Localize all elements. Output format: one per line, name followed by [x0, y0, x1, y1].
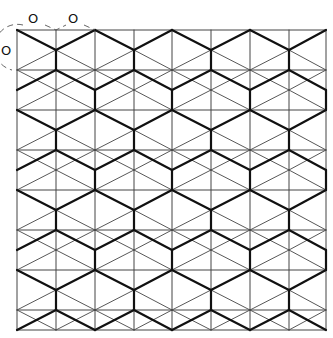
- lattice-diagonal: [134, 290, 172, 310]
- hexagon-edge: [250, 110, 289, 130]
- hexagon-edge: [134, 270, 172, 290]
- circle-label-3: O: [1, 44, 11, 57]
- lattice-diagonal: [250, 50, 289, 70]
- hexagon-edge: [95, 190, 134, 210]
- lattice-diagonal: [289, 250, 326, 270]
- lattice-diagonal: [56, 290, 95, 310]
- hexagon-edge: [289, 30, 326, 50]
- lattice-diagonal: [172, 50, 211, 70]
- hexagon-edge: [17, 30, 56, 50]
- lattice-diagonal: [289, 210, 326, 230]
- lattice-diagonal: [17, 130, 56, 150]
- lattice-diagonal: [17, 250, 56, 270]
- hexagon-edge: [17, 110, 56, 130]
- hexagon-edge: [172, 110, 211, 130]
- lattice-diagonal: [289, 290, 326, 310]
- lattice-diagonal: [211, 290, 250, 310]
- lattice-diagonal: [95, 250, 134, 270]
- hexagon-edge: [289, 190, 326, 210]
- lattice-diagonal: [134, 130, 172, 150]
- lattice-diagonal: [56, 210, 95, 230]
- circle-label-1: O: [28, 12, 38, 25]
- hexagon-edge: [172, 190, 211, 210]
- lattice-diagonal: [95, 90, 134, 110]
- lattice-diagonal: [172, 210, 211, 230]
- lattice-diagonal: [250, 210, 289, 230]
- hexagon-edge: [95, 270, 134, 290]
- hexagon-edge: [56, 110, 95, 130]
- lattice-diagonal: [172, 130, 211, 150]
- hexagon-edge: [95, 110, 134, 130]
- lattice-diagonal: [95, 50, 134, 70]
- compass-arc-mid: [45, 25, 66, 30]
- hexagon-edge: [250, 270, 289, 290]
- lattice-diagonal: [250, 130, 289, 150]
- hexagon-tiling-diagram: O O O: [0, 0, 333, 338]
- lattice-diagonal: [172, 250, 211, 270]
- lattice-diagonal: [56, 50, 95, 70]
- hexagon-edge: [56, 270, 95, 290]
- hexagon-edge: [211, 190, 250, 210]
- hexagon-edge: [172, 30, 211, 50]
- circle-label-2: O: [68, 12, 78, 25]
- hexagon-edge: [134, 110, 172, 130]
- hexagon-edge: [95, 30, 134, 50]
- lattice-diagonal: [211, 170, 250, 190]
- lattice-diagonal: [211, 210, 250, 230]
- hexagon-edge: [211, 110, 250, 130]
- lattice-diagonal: [211, 250, 250, 270]
- lattice-diagonal: [289, 90, 326, 110]
- hexagon-edge: [211, 270, 250, 290]
- hexagon-edge: [250, 30, 289, 50]
- lattice-diagonal: [211, 90, 250, 110]
- lattice-diagonal: [56, 250, 95, 270]
- lattice-svg: [0, 0, 333, 338]
- lattice-diagonal: [17, 90, 56, 110]
- lattice-diagonal: [134, 210, 172, 230]
- hexagon-edge: [134, 30, 172, 50]
- hexagon-edge: [17, 270, 56, 290]
- lattice-diagonal: [95, 170, 134, 190]
- lattice-diagonal: [17, 210, 56, 230]
- hexagon-edge: [211, 30, 250, 50]
- hexagon-edge: [56, 30, 95, 50]
- lattice-diagonal: [250, 90, 289, 110]
- lattice-diagonal: [56, 90, 95, 110]
- compass-arc-right: [84, 25, 95, 30]
- lattice-diagonal: [95, 130, 134, 150]
- lattice-diagonal: [289, 170, 326, 190]
- lattice-diagonal: [56, 130, 95, 150]
- lattice-diagonal: [134, 170, 172, 190]
- lattice-diagonal: [17, 50, 56, 70]
- hexagon-edge: [134, 190, 172, 210]
- lattice-diagonal: [134, 50, 172, 70]
- lattice-diagonal: [134, 90, 172, 110]
- hexagon-edge: [289, 270, 326, 290]
- lattice-diagonal: [95, 290, 134, 310]
- hexagon-edge: [172, 270, 211, 290]
- lattice-diagonal: [250, 170, 289, 190]
- hexagon-edge: [289, 110, 326, 130]
- lattice-diagonal: [17, 170, 56, 190]
- lattice-diagonal: [289, 50, 326, 70]
- lattice-diagonal: [172, 90, 211, 110]
- hexagon-edge: [250, 190, 289, 210]
- lattice-diagonal: [134, 250, 172, 270]
- lattice-diagonal: [211, 50, 250, 70]
- lattice-diagonal: [289, 130, 326, 150]
- lattice-diagonal: [250, 250, 289, 270]
- lattice-diagonal: [172, 170, 211, 190]
- hexagon-edge: [17, 190, 56, 210]
- hexagon-edge: [56, 190, 95, 210]
- lattice-diagonal: [56, 170, 95, 190]
- lattice-diagonal: [172, 290, 211, 310]
- lattice-diagonal: [250, 290, 289, 310]
- lattice-diagonal: [211, 130, 250, 150]
- lattice-diagonal: [95, 210, 134, 230]
- lattice-diagonal: [17, 290, 56, 310]
